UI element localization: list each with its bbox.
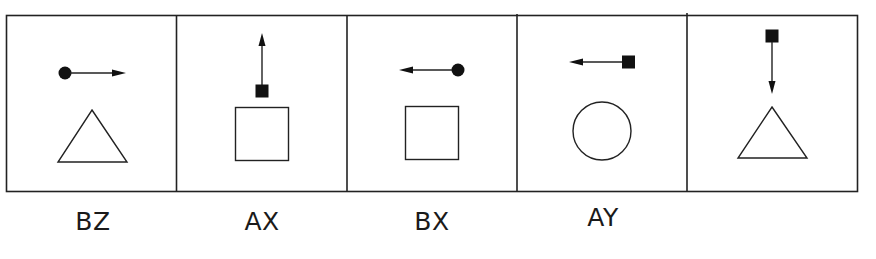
panel-2 xyxy=(236,33,289,161)
square-shape xyxy=(236,108,289,161)
panel-1-label: BZ xyxy=(53,207,133,236)
panel-3 xyxy=(399,64,465,160)
arrow-left-icon xyxy=(569,59,622,66)
panel-2-label: AX xyxy=(222,207,302,236)
filled-circle-icon xyxy=(59,67,72,80)
filled-circle-icon xyxy=(452,64,465,77)
square-shape xyxy=(406,107,459,160)
panel-4-label: AY xyxy=(563,203,643,232)
arrow-down-icon xyxy=(769,42,776,94)
arrow-left-icon xyxy=(399,67,452,74)
panel-strip-border xyxy=(7,16,858,192)
arrow-up-icon xyxy=(259,33,266,85)
panel-5 xyxy=(738,30,807,159)
filled-square-icon xyxy=(256,85,269,98)
filled-square-icon xyxy=(622,56,635,69)
circle-shape xyxy=(573,102,631,160)
panel-4 xyxy=(569,56,635,161)
triangle-shape xyxy=(738,107,807,158)
filled-square-icon xyxy=(766,30,779,43)
panel-1 xyxy=(58,67,127,163)
arrow-right-icon xyxy=(70,70,126,77)
panel-3-label: BX xyxy=(392,207,472,236)
triangle-shape xyxy=(58,110,127,162)
